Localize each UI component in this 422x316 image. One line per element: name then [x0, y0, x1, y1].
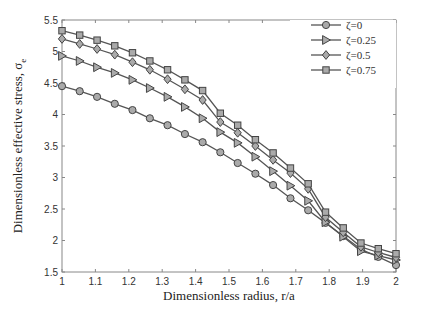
- y-axis-title-main: Dimensionless effective stress, σ: [10, 63, 25, 234]
- square-marker-icon: [234, 122, 240, 128]
- square-marker-icon: [305, 181, 311, 187]
- circle-marker-icon: [322, 21, 329, 28]
- legend-label: ζ=0.5: [346, 49, 371, 62]
- y-tick-label: 4.5: [44, 78, 58, 89]
- circle-marker-icon: [58, 83, 65, 90]
- square-marker-icon: [77, 32, 83, 38]
- square-marker-icon: [270, 150, 276, 156]
- circle-marker-icon: [146, 115, 153, 122]
- x-tick-label: 1.3: [155, 276, 169, 287]
- square-marker-icon: [217, 110, 223, 116]
- legend: ζ=0ζ=0.25ζ=0.5ζ=0.75: [290, 19, 396, 88]
- x-tick-label: 1.9: [356, 276, 370, 287]
- y-tick-label: 3.5: [44, 141, 58, 152]
- square-marker-icon: [340, 225, 346, 231]
- square-marker-icon: [94, 37, 100, 43]
- circle-marker-icon: [129, 106, 136, 113]
- square-marker-icon: [322, 209, 328, 215]
- y-tick-label: 5.5: [44, 15, 58, 26]
- square-marker-icon: [112, 43, 118, 49]
- legend-label: ζ=0: [346, 19, 363, 32]
- square-marker-icon: [375, 245, 381, 251]
- legend-label: ζ=0.25: [346, 34, 377, 47]
- x-tick-label: 1.1: [88, 276, 102, 287]
- square-marker-icon: [129, 50, 135, 56]
- x-axis-title: Dimensionless radius, r/a: [163, 288, 295, 303]
- square-marker-icon: [182, 77, 188, 83]
- x-tick-label: 1.4: [189, 276, 203, 287]
- y-tick-label: 1.5: [44, 267, 58, 278]
- circle-marker-icon: [164, 122, 171, 129]
- square-marker-icon: [393, 251, 399, 257]
- square-marker-icon: [59, 28, 65, 34]
- circle-marker-icon: [181, 130, 188, 137]
- line-chart: 11.11.21.31.41.51.61.71.81.92 1.522.533.…: [0, 0, 422, 316]
- circle-marker-icon: [305, 207, 312, 214]
- y-tick-label: 4: [52, 109, 58, 120]
- circle-marker-icon: [76, 88, 83, 95]
- circle-marker-icon: [217, 149, 224, 156]
- x-tick-label: 1.7: [289, 276, 303, 287]
- square-marker-icon: [358, 240, 364, 246]
- y-tick-label: 5: [52, 46, 58, 57]
- x-tick-label: 1.8: [322, 276, 336, 287]
- circle-marker-icon: [234, 159, 241, 166]
- x-tick-label: 1.6: [255, 276, 269, 287]
- y-axis-title-subscript: e: [18, 59, 28, 63]
- y-tick-label: 3: [52, 172, 58, 183]
- y-axis-title: Dimensionless effective stress, σe: [10, 59, 28, 234]
- x-tick-label: 2: [393, 276, 399, 287]
- square-marker-icon: [147, 58, 153, 64]
- circle-marker-icon: [269, 181, 276, 188]
- circle-marker-icon: [199, 139, 206, 146]
- square-marker-icon: [252, 137, 258, 143]
- circle-marker-icon: [111, 100, 118, 107]
- square-marker-icon: [199, 87, 205, 93]
- x-tick-label: 1.2: [122, 276, 136, 287]
- y-tick-label: 2: [52, 235, 58, 246]
- y-tick-label: 2.5: [44, 204, 58, 215]
- square-marker-icon: [287, 165, 293, 171]
- legend-label: ζ=0.75: [346, 64, 377, 77]
- x-tick-label: 1: [59, 276, 65, 287]
- x-tick-label: 1.5: [222, 276, 236, 287]
- circle-marker-icon: [287, 195, 294, 202]
- circle-marker-icon: [93, 93, 100, 100]
- square-marker-icon: [323, 67, 329, 73]
- circle-marker-icon: [252, 170, 259, 177]
- square-marker-icon: [164, 67, 170, 73]
